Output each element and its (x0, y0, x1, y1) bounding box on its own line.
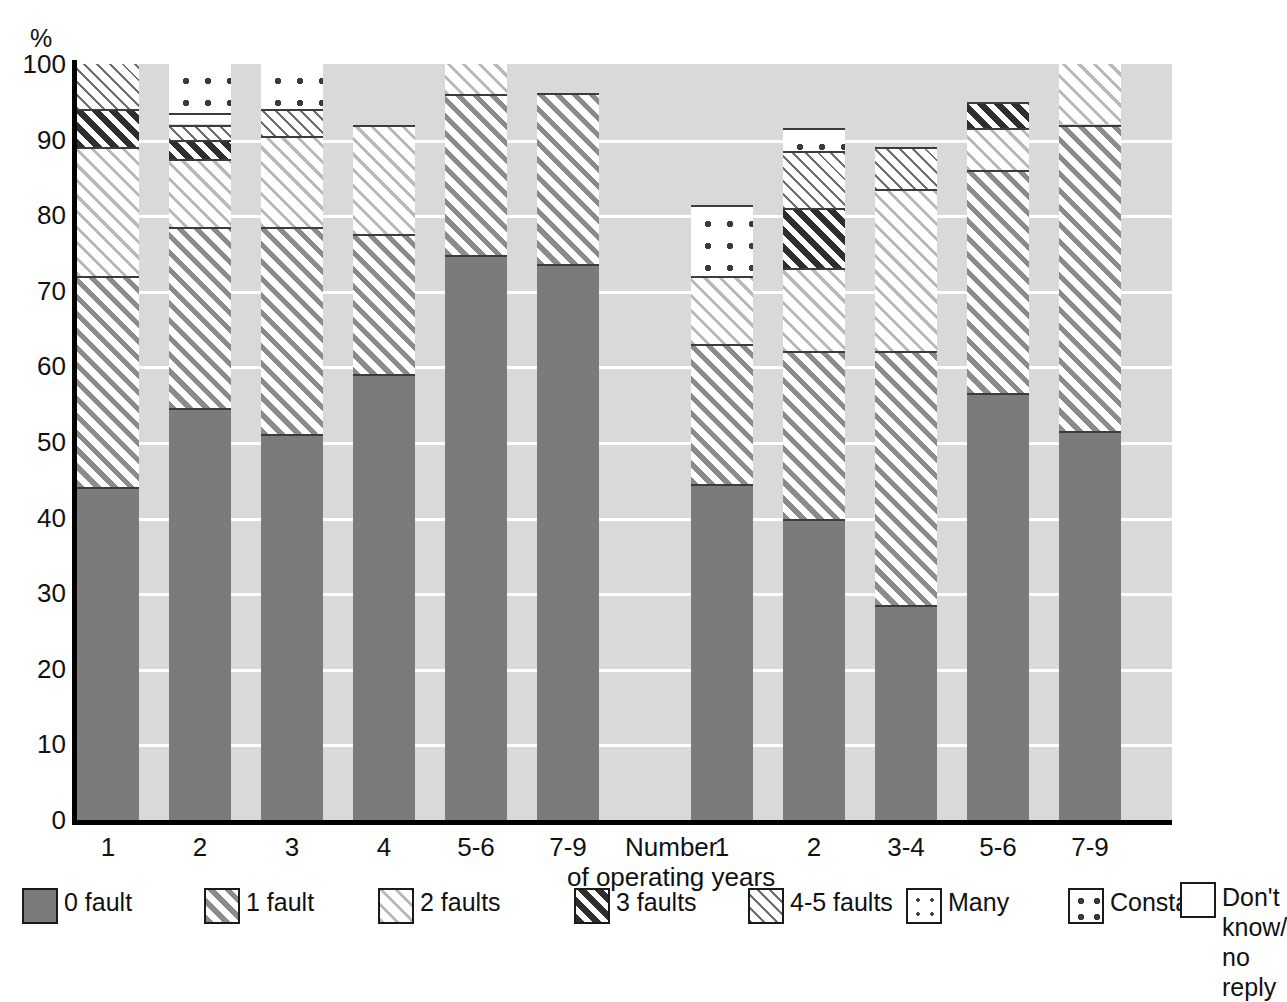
bar-2-segment-four_five (169, 125, 231, 140)
legend-item-dont_know[interactable]: Don't know/ no reply (1180, 882, 1287, 1002)
y-tick-90: 90 (10, 127, 66, 153)
bar-2-segment-one (169, 227, 231, 408)
bar-9[interactable] (875, 64, 937, 820)
bar-9-segment-two (875, 189, 937, 352)
bar-6-segment-zero (537, 264, 599, 820)
bar-10-segment-one (967, 170, 1029, 393)
bar-2-segment-constant (169, 64, 231, 113)
legend-item-one[interactable]: 1 fault (204, 888, 314, 924)
bar-11[interactable] (1059, 64, 1121, 820)
x-tick-4: 4 (353, 832, 415, 862)
y-tick-0: 0 (10, 807, 66, 833)
bar-2[interactable] (169, 64, 231, 820)
bar-10-segment-three (967, 102, 1029, 128)
x-tick-8: 2 (783, 832, 845, 862)
y-tick-40: 40 (10, 505, 66, 531)
bar-7-segment-dont_know (691, 64, 753, 205)
bar-1-segment-two (77, 147, 139, 276)
legend-label-dont_know: Don't know/ no reply (1222, 882, 1287, 1002)
legend-swatch-empty-white-icon (1180, 882, 1216, 918)
bar-7-segment-zero (691, 484, 753, 820)
y-tick-30: 30 (10, 580, 66, 606)
bar-8-segment-one (783, 351, 845, 519)
bar-7-segment-one (691, 344, 753, 484)
bar-4-segment-two (353, 125, 415, 235)
bar-3-segment-zero (261, 434, 323, 820)
bar-9-segment-four_five (875, 147, 937, 189)
legend-item-four_five[interactable]: 4-5 faults (748, 888, 893, 924)
bar-3-segment-one (261, 227, 323, 435)
bar-3[interactable] (261, 64, 323, 820)
bar-8-segment-four_five (783, 151, 845, 208)
plot-area (77, 64, 1172, 820)
bar-6-segment-dont_know (537, 64, 599, 93)
bar-8-segment-constant (783, 128, 845, 151)
y-tick-100: 100 (10, 51, 66, 77)
x-axis-caption-line1: Number (625, 832, 717, 862)
bar-8-segment-three (783, 208, 845, 268)
bar-1-segment-four_five (77, 64, 139, 109)
legend-swatch-dots-small-icon (906, 888, 942, 924)
bar-3-segment-four_five (261, 109, 323, 135)
x-tick-1: 1 (77, 832, 139, 862)
y-tick-10: 10 (10, 731, 66, 757)
bar-10[interactable] (967, 64, 1029, 820)
legend-swatch-diagonal-fine-icon (748, 888, 784, 924)
bar-5-segment-zero (445, 255, 507, 820)
bar-1-segment-one (77, 276, 139, 488)
bar-5[interactable] (445, 64, 507, 820)
bar-1-segment-zero (77, 487, 139, 820)
legend-item-zero[interactable]: 0 fault (22, 888, 132, 924)
x-tick-9: 3-4 (875, 832, 937, 862)
bar-11-segment-one (1059, 125, 1121, 431)
bar-2-segment-three (169, 140, 231, 159)
bar-1[interactable] (77, 64, 139, 820)
bar-4-segment-dont_know (353, 64, 415, 124)
x-axis-line (72, 820, 1172, 825)
bar-2-segment-zero (169, 408, 231, 820)
bar-5-segment-one (445, 94, 507, 255)
bar-7[interactable] (691, 64, 753, 820)
y-tick-70: 70 (10, 278, 66, 304)
legend-item-many[interactable]: Many (906, 888, 1009, 924)
bar-2-segment-many (169, 113, 231, 124)
legend-swatch-diagonal-light-icon (378, 888, 414, 924)
y-tick-20: 20 (10, 656, 66, 682)
x-tick-11: 7-9 (1059, 832, 1121, 862)
legend-item-two[interactable]: 2 faults (378, 888, 501, 924)
bar-10-segment-dont_know (967, 64, 1029, 102)
legend-label-two: 2 faults (420, 888, 501, 916)
bar-10-segment-zero (967, 393, 1029, 820)
x-tick-3: 3 (261, 832, 323, 862)
legend-item-three[interactable]: 3 faults (574, 888, 697, 924)
bar-8-segment-dont_know (783, 64, 845, 128)
bar-11-segment-zero (1059, 431, 1121, 820)
bar-7-segment-two (691, 276, 753, 344)
bar-4[interactable] (353, 64, 415, 820)
bar-4-segment-one (353, 234, 415, 374)
y-tick-50: 50 (10, 429, 66, 455)
bar-8-segment-zero (783, 519, 845, 820)
legend-swatch-solid-gray-icon (22, 888, 58, 924)
bar-8-segment-two (783, 268, 845, 351)
legend-swatch-diagonal-dark-icon (574, 888, 610, 924)
legend-label-four_five: 4-5 faults (790, 888, 893, 916)
bar-10-segment-two (967, 128, 1029, 170)
x-tick-2: 2 (169, 832, 231, 862)
y-tick-60: 60 (10, 353, 66, 379)
bar-9-segment-dont_know (875, 64, 937, 147)
chart-legend: 0 fault1 fault2 faults3 faults4-5 faults… (22, 884, 1222, 954)
bar-6[interactable] (537, 64, 599, 820)
bar-4-segment-zero (353, 374, 415, 820)
bar-8[interactable] (783, 64, 845, 820)
bar-3-segment-two (261, 136, 323, 227)
legend-label-three: 3 faults (616, 888, 697, 916)
y-tick-80: 80 (10, 202, 66, 228)
bar-5-segment-two (445, 64, 507, 94)
legend-label-one: 1 fault (246, 888, 314, 916)
bar-9-segment-zero (875, 605, 937, 820)
legend-label-many: Many (948, 888, 1009, 916)
x-tick-6: 7-9 (537, 832, 599, 862)
bar-7-segment-constant (691, 205, 753, 275)
bar-1-segment-three (77, 109, 139, 147)
